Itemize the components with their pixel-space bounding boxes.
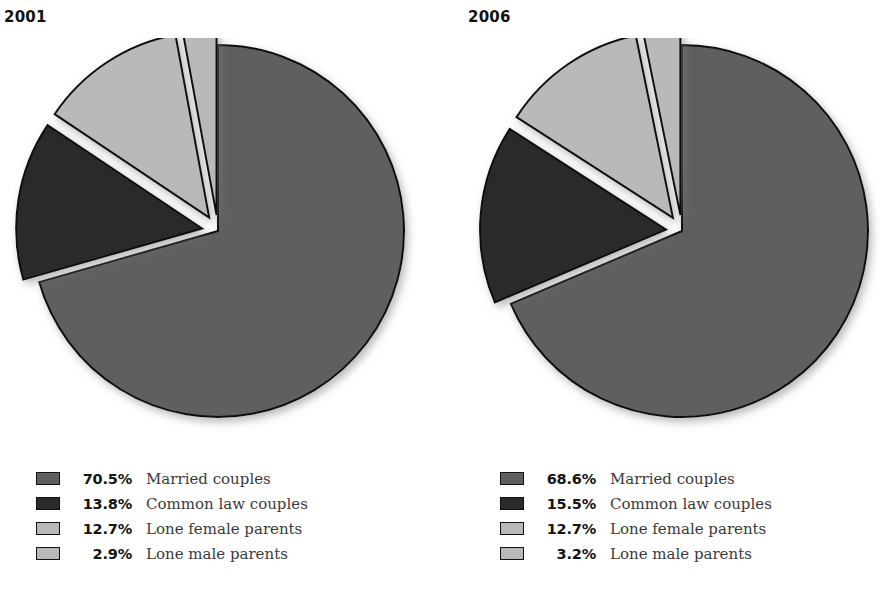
legend-label: Lone female parents	[610, 520, 766, 538]
panel-title-2001: 2001	[4, 8, 47, 26]
legend-swatch	[500, 522, 524, 535]
legend-2001: 70.5%Married couples13.8%Common law coup…	[36, 466, 396, 566]
legend-label: Married couples	[610, 470, 735, 488]
legend-percent: 70.5%	[70, 471, 132, 487]
legend-label: Lone female parents	[146, 520, 302, 538]
legend-percent: 3.2%	[534, 546, 596, 562]
legend-percent: 12.7%	[70, 521, 132, 537]
legend-label: Married couples	[146, 470, 271, 488]
legend-item: 15.5%Common law couples	[500, 491, 860, 516]
legend-label: Lone male parents	[610, 545, 752, 563]
legend-item: 2.9%Lone male parents	[36, 541, 396, 566]
chart-panel-2001: 2001 70.5%Married couples13.8%Common law…	[0, 0, 431, 589]
legend-label: Lone male parents	[146, 545, 288, 563]
legend-item: 70.5%Married couples	[36, 466, 396, 491]
pie-svg-2001	[0, 38, 416, 438]
legend-percent: 2.9%	[70, 546, 132, 562]
legend-item: 68.6%Married couples	[500, 466, 860, 491]
legend-swatch	[36, 472, 60, 485]
legend-percent: 12.7%	[534, 521, 596, 537]
legend-percent: 15.5%	[534, 496, 596, 512]
legend-percent: 13.8%	[70, 496, 132, 512]
legend-swatch	[36, 547, 60, 560]
legend-item: 12.7%Lone female parents	[500, 516, 860, 541]
legend-item: 12.7%Lone female parents	[36, 516, 396, 541]
legend-swatch	[500, 547, 524, 560]
legend-label: Common law couples	[146, 495, 308, 513]
legend-item: 13.8%Common law couples	[36, 491, 396, 516]
chart-panel-2006: 2006 68.6%Married couples15.5%Common law…	[464, 0, 884, 589]
legend-2006: 68.6%Married couples15.5%Common law coup…	[500, 466, 860, 566]
pie-chart-2006	[460, 38, 880, 438]
pie-svg-2006	[460, 38, 880, 438]
legend-swatch	[36, 522, 60, 535]
legend-item: 3.2%Lone male parents	[500, 541, 860, 566]
legend-swatch	[500, 472, 524, 485]
legend-swatch	[36, 497, 60, 510]
legend-percent: 68.6%	[534, 471, 596, 487]
panel-title-2006: 2006	[468, 8, 511, 26]
legend-label: Common law couples	[610, 495, 772, 513]
pie-chart-2001	[0, 38, 416, 438]
legend-swatch	[500, 497, 524, 510]
